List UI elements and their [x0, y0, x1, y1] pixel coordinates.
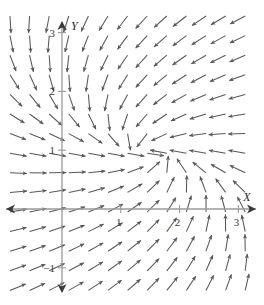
- x-tick-label: 2: [175, 216, 181, 228]
- field-arrow: [122, 114, 127, 130]
- field-arrow: [49, 226, 65, 232]
- field-arrow: [30, 36, 31, 53]
- field-arrow: [10, 153, 27, 156]
- field-arrow: [128, 260, 141, 271]
- field-arrow: [230, 55, 246, 62]
- field-arrow: [30, 227, 46, 232]
- field-arrow: [211, 36, 226, 44]
- field-arrow: [147, 239, 159, 251]
- field-arrow: [192, 36, 206, 45]
- field-arrow: [136, 36, 148, 49]
- field-arrow: [210, 94, 226, 100]
- field-arrow: [108, 114, 110, 131]
- field-arrow: [153, 94, 166, 104]
- field-arrow: [229, 75, 245, 81]
- field-arrow: [49, 190, 66, 193]
- field-arrow: [108, 261, 122, 271]
- field-arrow: [147, 200, 159, 212]
- field-arrow: [30, 153, 47, 156]
- field-arrow: [128, 134, 131, 151]
- field-arrow: [29, 16, 30, 33]
- field-arrow: [173, 16, 186, 26]
- field-arrow: [128, 279, 141, 290]
- field-arrow: [167, 277, 178, 290]
- field-arrow: [147, 153, 164, 156]
- field-arrow: [216, 179, 226, 193]
- vector-field-figure: 123321−1XY: [0, 0, 264, 305]
- field-arrow: [128, 184, 143, 193]
- field-arrow: [108, 170, 125, 173]
- field-arrow: [151, 134, 166, 141]
- field-arrow: [154, 16, 167, 27]
- field-arrow: [177, 159, 186, 173]
- field-arrow: [147, 181, 159, 193]
- field-arrow: [69, 225, 85, 231]
- field-arrow: [154, 55, 167, 66]
- field-arrow: [186, 236, 194, 251]
- field-arrow: [228, 150, 245, 153]
- field-arrow: [49, 114, 62, 125]
- field-arrow: [88, 114, 95, 129]
- field-arrow: [88, 281, 102, 290]
- field-arrow: [136, 94, 147, 107]
- field-arrow: [206, 235, 212, 251]
- field-arrow: [100, 36, 108, 51]
- field-arrow: [69, 172, 86, 173]
- field-arrow: [171, 114, 187, 121]
- field-arrow: [128, 240, 141, 251]
- field-arrow: [186, 256, 195, 271]
- field-arrow: [120, 94, 128, 109]
- x-tick-label: 1: [116, 216, 122, 228]
- axes-layer: [6, 21, 256, 293]
- field-arrow: [136, 16, 148, 28]
- field-arrow: [228, 114, 245, 117]
- field-arrow: [30, 191, 47, 193]
- field-arrow: [147, 259, 159, 271]
- field-arrow: [200, 176, 206, 192]
- field-arrow: [108, 153, 125, 156]
- field-arrow: [191, 75, 206, 83]
- field-arrow: [147, 278, 159, 290]
- field-arrow: [105, 94, 108, 111]
- field-arrow: [229, 94, 245, 99]
- field-arrow: [30, 55, 34, 72]
- field-arrow: [10, 173, 27, 174]
- field-arrow: [136, 114, 147, 127]
- field-arrow: [211, 16, 226, 25]
- y-tick-label: 1: [50, 144, 56, 156]
- field-arrow: [186, 276, 195, 290]
- field-arrow: [154, 75, 167, 86]
- field-arrow: [69, 75, 70, 92]
- field-arrow: [245, 274, 249, 291]
- field-arrow: [173, 55, 187, 65]
- field-arrow: [226, 234, 229, 251]
- vector-field-canvas: 123321−1XY: [0, 0, 264, 305]
- field-arrow: [167, 177, 174, 192]
- field-arrow: [101, 55, 108, 70]
- field-arrow: [230, 36, 245, 43]
- field-arrow: [108, 242, 122, 251]
- field-arrow: [189, 150, 206, 153]
- field-arrow: [210, 75, 226, 82]
- field-arrow: [128, 202, 142, 212]
- field-arrow: [191, 55, 206, 64]
- field-arrow: [189, 134, 206, 136]
- field-arrow: [88, 262, 102, 271]
- field-arrow: [167, 198, 176, 212]
- field-arrow: [82, 36, 88, 52]
- field-arrow: [136, 75, 147, 88]
- field-arrow: [10, 265, 26, 271]
- field-arrow: [117, 16, 127, 30]
- field-arrow: [128, 153, 145, 156]
- field-arrow: [226, 254, 231, 270]
- field-arrow: [206, 255, 213, 271]
- field-arrow: [81, 16, 88, 31]
- field-arrow: [69, 114, 80, 127]
- field-arrow: [30, 245, 46, 251]
- field-arrow: [170, 150, 187, 153]
- field-arrow: [170, 134, 187, 138]
- field-arrow: [245, 254, 247, 271]
- field-arrow: [88, 224, 103, 232]
- field-arrow: [108, 134, 119, 147]
- field-arrow: [209, 150, 226, 153]
